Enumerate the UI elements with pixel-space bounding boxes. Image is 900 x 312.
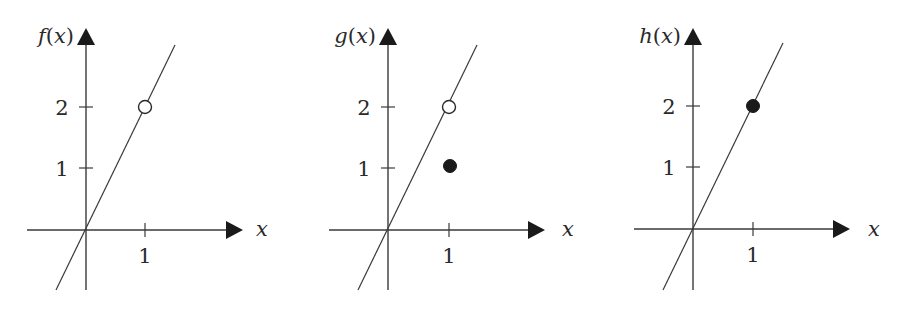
y-tick-label-2: 2 [357,96,370,120]
y-tick-label-1: 1 [55,157,68,181]
open-circle-marker [443,101,456,114]
panel-g: 2 1 1 x g(x) [329,24,574,290]
y-axis-arrow-icon [684,28,702,45]
x-axis-label: x [562,217,574,241]
y-axis-arrow-icon [77,28,95,45]
filled-circle-marker [444,160,457,173]
panel-f: 2 1 1 x f(x) [27,24,268,290]
x-tick-label-1: 1 [138,244,151,268]
y-axis-label: g(x) [334,24,376,48]
x-axis-arrow-icon [528,221,545,239]
x-axis-arrow-icon [226,221,243,239]
function-line [663,43,783,290]
y-tick-label-2: 2 [662,95,675,119]
y-tick-label-1: 1 [662,156,675,180]
x-axis-arrow-icon [833,220,850,238]
y-axis-arrow-icon [379,28,397,45]
x-tick-label-1: 1 [442,244,455,268]
y-axis-label: f(x) [36,24,74,48]
x-axis-label: x [256,217,268,241]
y-tick-label-2: 2 [55,96,68,120]
x-tick-label-1: 1 [746,243,759,267]
open-circle-marker [139,101,152,114]
function-line [56,45,175,290]
y-tick-label-1: 1 [357,157,370,181]
x-axis-label: x [868,217,880,241]
function-line [358,45,477,290]
y-axis-label: h(x) [639,24,681,48]
panel-h: 2 1 1 x h(x) [634,24,880,290]
limit-graphs-figure: 2 1 1 x f(x) 2 1 1 x g(x) 2 1 1 x [0,0,900,312]
filled-circle-marker [747,100,760,113]
